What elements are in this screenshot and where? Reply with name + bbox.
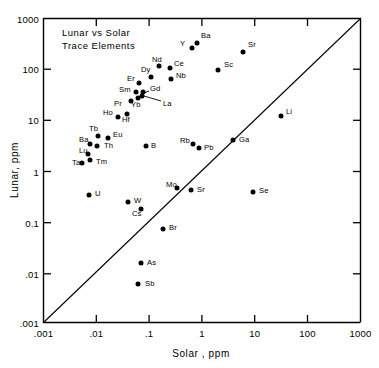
data-point-marker [136,282,141,287]
data-point-label: Mo [166,180,177,189]
data-point-label: Ga [239,135,249,144]
data-point-label: Nb [176,71,186,80]
y-tick-label-10: 10 [28,115,39,126]
data-point-label: W [134,196,141,205]
data-point-marker [279,114,284,119]
figure-container: Lunar vs SolarTrace Elements .001 .01 .1… [0,0,379,368]
plot-canvas [0,0,379,368]
data-point-label: As [147,258,156,267]
x-tick-label-1: .01 [89,328,103,339]
y-tick-label-100: 100 [23,64,39,75]
data-point-marker [169,77,174,82]
y-tick-marks [44,69,52,274]
data-point-label: U [95,189,101,198]
x-axis-title: Solar , ppm [172,348,230,359]
data-point-label: Sm [119,85,131,94]
data-point-label: B [151,141,156,150]
data-point-marker [149,75,154,80]
data-point-label: Sc [224,60,233,69]
data-point-label: Sr [248,40,256,49]
data-point-label: Pb [204,143,214,152]
data-point-marker [116,115,121,120]
data-point-label: Eu [113,130,123,139]
y-tick-marks-right [353,69,361,274]
data-point-label: Lu [79,146,88,155]
data-point-marker [168,66,173,71]
y-tick-label-0.1: 0.1 [25,217,39,228]
data-point-marker [190,46,195,51]
x-tick-label-2: .1 [145,328,153,339]
data-point-marker [157,64,162,69]
data-point-marker [189,188,194,193]
data-point-marker [191,142,196,147]
data-point-marker [95,144,100,149]
chart-title-line2: Trace Elements [62,40,135,51]
data-point-label: Ba [201,31,211,40]
chart-title: Lunar vs SolarTrace Elements [62,26,135,52]
data-point-label: Pr [114,99,122,108]
x-tick-label-0: .001 [34,328,53,339]
reference-line-1to1 [44,19,361,323]
data-point-label: Y [180,39,185,48]
data-point-label: Dy [141,65,150,74]
data-point-marker [231,138,236,143]
data-point-label: Cs [132,209,141,218]
y-tick-label-1000: 1000 [17,13,39,24]
x-tick-label-5: 100 [299,328,315,339]
data-point-label: Ba [79,135,89,144]
data-point-label: Li [286,107,292,116]
data-point-marker [197,146,202,151]
data-point-marker [140,94,145,99]
data-point-marker [216,68,221,73]
data-point-label: Hf [122,115,130,124]
y-tick-label-0.001: .001 [20,317,39,328]
data-point-marker [88,158,93,163]
data-point-label: Gd [150,84,160,93]
data-point-label: Th [104,141,113,150]
y-tick-label-0.01: .01 [25,268,39,279]
la-leader-line [144,96,161,101]
data-point-label: Ho [103,108,113,117]
data-point-marker [87,193,92,198]
x-tick-label-4: 10 [249,328,260,339]
data-point-label: Nd [152,55,162,64]
data-point-label: Tb [89,124,98,133]
data-point-label: Ce [174,59,184,68]
data-point-label: La [163,99,172,108]
data-point-marker [241,50,246,55]
data-point-marker [96,134,101,139]
data-point-label: Ta [72,158,80,167]
data-point-marker [139,261,144,266]
y-tick-label-1: 1 [34,166,39,177]
data-point-marker [137,81,142,86]
y-axis-title: Lunar, ppm [9,142,20,198]
data-point-label: Se [259,186,269,195]
chart-title-line1: Lunar vs Solar [62,27,130,38]
data-point-label: Sb [145,279,155,288]
data-point-marker [195,41,200,46]
data-point-label: Er [127,74,135,83]
data-point-label: Tm [96,157,107,166]
data-point-marker [106,136,111,141]
data-point-marker [134,90,139,95]
data-point-marker [126,200,131,205]
data-point-marker [161,227,166,232]
x-tick-label-3: 1 [199,328,204,339]
x-tick-label-6: 1000 [350,328,372,339]
data-point-marker [251,190,256,195]
data-point-label: Yb [131,100,141,109]
data-point-marker [144,144,149,149]
data-point-marker [80,161,85,166]
x-tick-marks [96,315,307,323]
data-point-label: Sr [197,185,205,194]
data-point-label: Rb [180,136,190,145]
x-tick-marks-top [96,19,307,27]
data-point-label: Br [169,223,177,232]
